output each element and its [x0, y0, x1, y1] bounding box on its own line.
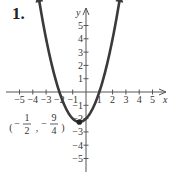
- svg-text:5: 5: [78, 20, 83, 31]
- svg-text:9: 9: [52, 112, 57, 123]
- axes: xy−5−4−3−2−112345−5−4−3−2−112345: [6, 7, 168, 172]
- svg-text:−: −: [41, 118, 47, 129]
- svg-text:−4: −4: [27, 94, 38, 105]
- svg-text:4: 4: [78, 33, 83, 44]
- svg-text:2: 2: [78, 60, 83, 71]
- svg-text:−5: −5: [14, 94, 25, 105]
- svg-text:3: 3: [78, 47, 83, 58]
- svg-text:−1: −1: [72, 100, 83, 111]
- vertex-label: (−12,−94): [9, 112, 64, 136]
- svg-text:): ): [61, 122, 64, 134]
- svg-text:4: 4: [52, 125, 57, 136]
- svg-text:4: 4: [137, 94, 142, 105]
- svg-text:−3: −3: [72, 126, 83, 137]
- svg-text:,: ,: [36, 122, 39, 133]
- svg-text:(: (: [9, 122, 13, 134]
- svg-text:−5: −5: [72, 153, 83, 164]
- svg-text:−3: −3: [41, 94, 52, 105]
- curve-arrows: [35, 0, 123, 3]
- svg-text:3: 3: [123, 94, 128, 105]
- svg-text:y: y: [75, 7, 81, 18]
- svg-text:x: x: [162, 94, 168, 105]
- svg-text:−4: −4: [72, 140, 83, 151]
- vertex-point: [77, 119, 83, 125]
- svg-text:2: 2: [110, 94, 115, 105]
- svg-text:1: 1: [25, 112, 30, 123]
- svg-text:5: 5: [150, 94, 155, 105]
- parabola-graph: xy−5−4−3−2−112345−5−4−3−2−112345 (−12,−9…: [0, 0, 173, 175]
- svg-text:−: −: [14, 118, 20, 129]
- svg-text:2: 2: [25, 125, 30, 136]
- svg-text:1: 1: [78, 73, 83, 84]
